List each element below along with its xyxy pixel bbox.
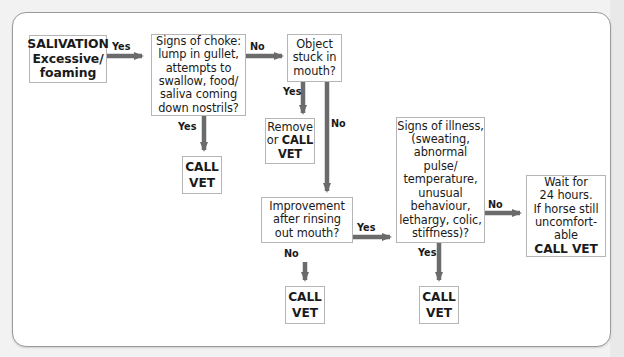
text-line: mouth?	[293, 65, 335, 78]
text-line: VET	[278, 148, 302, 161]
text-line: after rinsing	[273, 213, 341, 226]
text-line: CALL	[422, 289, 456, 305]
edge-label-improvement-illness: Yes	[357, 222, 375, 234]
edge-label-choke-object: No	[250, 41, 265, 53]
text-line: Improvement	[269, 200, 345, 213]
node-signs-of-choke: Signs of choke: lump in gullet, attempts…	[151, 34, 246, 116]
node-object-stuck: Object stuck in mouth?	[287, 34, 342, 82]
text-line: Remove	[267, 121, 313, 134]
node-improvement: Improvement after rinsing out mouth?	[261, 197, 353, 243]
text-line: unusual	[418, 187, 462, 200]
edge-label-object-remove: Yes	[283, 86, 301, 98]
node-signs-of-illness: Signs of illness, (sweating, abnormal pu…	[396, 117, 485, 243]
text-fragment-bold: CALL	[282, 133, 313, 147]
text-line: Wait for	[544, 176, 588, 189]
text-line: abnormal	[414, 146, 467, 159]
node-call-vet-illness: CALL VET	[419, 286, 459, 324]
edge-label-illness-vet: Yes	[418, 247, 436, 259]
text-line: 24 hours.	[540, 189, 593, 202]
edge-label-improvement-vet: No	[284, 248, 299, 260]
text-line: VET	[292, 305, 318, 321]
text-line: lump in gullet,	[158, 48, 239, 61]
text-line: lethargy, colic,	[399, 214, 481, 227]
edge-label-choke-vet: Yes	[178, 121, 196, 133]
text-line: (sweating,	[411, 133, 469, 146]
text-line: down nostrils?	[158, 102, 239, 115]
text-line: CALL	[185, 159, 219, 175]
text-line: stuck in	[293, 51, 337, 64]
text-line: stiffness)?	[412, 227, 469, 240]
text-line: attempts to	[166, 62, 232, 75]
text-line: pulse/	[424, 160, 458, 173]
text-line: If horse still	[534, 203, 599, 216]
node-remove-or-call-vet: Remove or CALL VET	[265, 118, 315, 164]
node-call-vet-no-improvement: CALL VET	[285, 286, 325, 324]
text-line: saliva coming	[160, 88, 237, 101]
text-line: swallow, food/	[159, 75, 239, 88]
node-salivation-line1: SALIVATION	[27, 37, 108, 52]
node-call-vet-choke: CALL VET	[182, 156, 222, 194]
text-line: Object	[296, 38, 333, 51]
text-line: uncomfort-	[535, 216, 597, 229]
text-line: able	[554, 229, 578, 242]
text-line: CALL	[288, 289, 322, 305]
text-line: temperature,	[403, 173, 477, 186]
text-line: or CALL	[267, 134, 313, 147]
text-line: behaviour,	[411, 200, 471, 213]
node-salivation-line2: Excessive/	[32, 52, 103, 67]
text-fragment: or	[267, 133, 282, 147]
text-line: VET	[426, 305, 452, 321]
node-salivation-line3: foaming	[40, 66, 96, 81]
node-wait-24-hours: Wait for 24 hours. If horse still uncomf…	[526, 175, 606, 257]
text-line: Signs of illness,	[397, 120, 484, 133]
text-line: out mouth?	[275, 227, 339, 240]
node-salivation: SALIVATION Excessive/ foaming	[29, 35, 107, 83]
text-line: VET	[189, 175, 215, 191]
edge-label-object-improvement: No	[331, 118, 346, 130]
edge-label-start-choke: Yes	[112, 41, 130, 53]
text-line: Signs of choke:	[156, 35, 241, 48]
edge-label-illness-wait: No	[488, 199, 503, 211]
text-line-bold: CALL VET	[534, 243, 597, 256]
